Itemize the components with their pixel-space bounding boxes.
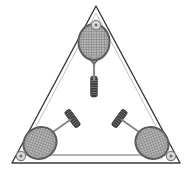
bolt-center-dot: [95, 24, 98, 27]
bolt-bottom-left: [16, 151, 25, 160]
bolt-bottom-right: [166, 151, 175, 160]
bolt-center-dot: [170, 155, 173, 158]
bolt-center-dot: [20, 155, 23, 158]
figure-canvas: Three rackets in triangular frame: [0, 0, 192, 171]
bolt-apex: [91, 20, 100, 29]
racket-triangle-illustration: [0, 0, 192, 171]
